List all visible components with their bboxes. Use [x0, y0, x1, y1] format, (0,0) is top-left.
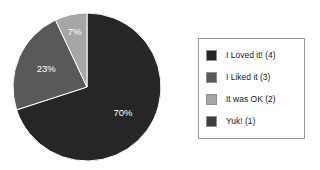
legend-item-it-was-ok[interactable]: It was OK (2)	[199, 88, 304, 110]
legend-swatch-icon	[206, 50, 217, 61]
legend-item-label: I Liked it (3)	[226, 73, 270, 82]
legend-swatch-icon	[206, 72, 217, 83]
legend-swatch-icon	[206, 94, 217, 105]
legend-swatch-icon	[206, 116, 217, 127]
pie-chart-plot-area: 70% 23% 7%	[12, 12, 162, 162]
pie-label-70-percent: 70%	[113, 107, 133, 118]
pie-slices	[13, 13, 161, 161]
legend-item-yuk[interactable]: Yuk! (1)	[199, 110, 304, 132]
pie-label-7-percent: 7%	[68, 26, 82, 37]
legend-item-label: I Loved it! (4)	[226, 51, 276, 60]
legend-item-i-liked-it[interactable]: I Liked it (3)	[199, 66, 304, 88]
legend-item-label: It was OK (2)	[226, 95, 276, 104]
pie-label-23-percent: 23%	[37, 63, 57, 74]
legend-list: I Loved it! (4) I Liked it (3) It was OK…	[199, 44, 304, 132]
chart-legend: I Loved it! (4) I Liked it (3) It was OK…	[198, 38, 305, 139]
pie-chart-svg: 70% 23% 7%	[12, 12, 162, 162]
legend-item-label: Yuk! (1)	[226, 117, 255, 126]
pie-chart-figure: 70% 23% 7% I Loved it! (4) I Liked it (3…	[0, 0, 320, 170]
legend-item-i-loved-it[interactable]: I Loved it! (4)	[199, 44, 304, 66]
